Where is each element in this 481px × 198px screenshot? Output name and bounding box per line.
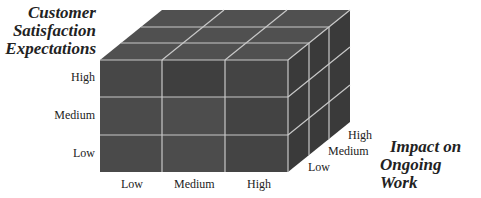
y-tick-low: Low bbox=[73, 146, 95, 161]
z-tick-high: High bbox=[348, 128, 372, 143]
cube-front-face bbox=[100, 60, 288, 172]
x-tick-medium: Medium bbox=[174, 177, 215, 192]
x-tick-low: Low bbox=[121, 177, 143, 192]
y-tick-high: High bbox=[71, 70, 95, 85]
y-axis-title-line: Satisfaction bbox=[0, 22, 96, 40]
y-axis-title: Customer Satisfaction Expectations bbox=[0, 4, 96, 58]
y-axis-title-line: Customer bbox=[0, 4, 96, 22]
y-tick-medium: Medium bbox=[54, 108, 95, 123]
z-tick-medium: Medium bbox=[328, 144, 369, 159]
x-tick-high: High bbox=[247, 177, 271, 192]
z-axis-title-line: Impact on bbox=[380, 138, 480, 156]
z-axis-title: Impact on Ongoing Work bbox=[380, 138, 480, 192]
y-axis-title-line: Expectations bbox=[0, 40, 96, 58]
z-axis-title-line: Ongoing Work bbox=[380, 156, 480, 192]
z-tick-low: Low bbox=[308, 160, 330, 175]
